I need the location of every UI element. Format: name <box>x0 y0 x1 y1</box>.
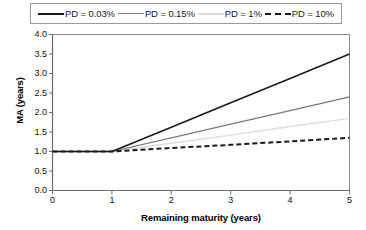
x-tick-label: 4 <box>280 196 300 205</box>
x-axis-title: Remaining maturity (years) <box>52 212 350 223</box>
chart-figure: PD = 0.03%PD = 0.15%PD = 1%PD = 10% MA (… <box>0 0 366 230</box>
x-axis-tick-labels: 012345 <box>0 196 366 210</box>
x-tick-label: 5 <box>340 196 360 205</box>
plot-frame <box>53 35 350 191</box>
x-tick-label: 0 <box>43 196 63 205</box>
x-tick-label: 1 <box>102 196 122 205</box>
x-axis-ticks <box>53 191 350 195</box>
x-tick-label: 2 <box>161 196 181 205</box>
x-tick-label: 3 <box>221 196 241 205</box>
